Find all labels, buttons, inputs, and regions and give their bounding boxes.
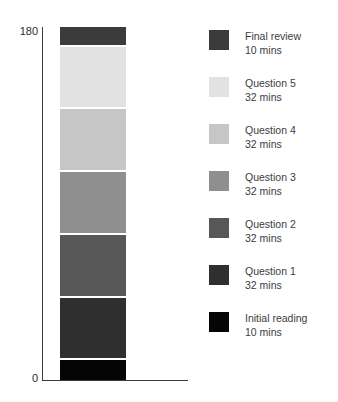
legend-value: 10 mins — [245, 43, 301, 57]
legend-text: Question 232 mins — [245, 217, 296, 245]
bar-segment — [60, 360, 126, 380]
legend-label: Final review — [245, 29, 301, 43]
legend-label: Question 1 — [245, 264, 296, 278]
legend-text: Question 132 mins — [245, 264, 296, 292]
bar-segment — [60, 235, 126, 298]
legend-swatch-icon — [209, 218, 229, 238]
legend-item[interactable]: Question 232 mins — [209, 217, 335, 264]
legend-text: Final review10 mins — [245, 29, 301, 57]
legend-value: 32 mins — [245, 278, 296, 292]
bar-segment — [60, 298, 126, 361]
legend-item[interactable]: Question 532 mins — [209, 76, 335, 123]
legend-item[interactable]: Initial reading10 mins — [209, 311, 335, 358]
legend-text: Question 432 mins — [245, 123, 296, 151]
legend-swatch-icon — [209, 124, 229, 144]
legend-value: 32 mins — [245, 137, 296, 151]
legend-label: Question 5 — [245, 76, 296, 90]
legend-item[interactable]: Question 432 mins — [209, 123, 335, 170]
legend-value: 32 mins — [245, 231, 296, 245]
legend-swatch-icon — [209, 265, 229, 285]
legend-item[interactable]: Final review10 mins — [209, 29, 335, 76]
legend-value: 10 mins — [245, 325, 307, 339]
x-axis-line — [42, 380, 188, 381]
legend-value: 32 mins — [245, 184, 296, 198]
legend-text: Initial reading10 mins — [245, 311, 307, 339]
legend-label: Question 4 — [245, 123, 296, 137]
legend-label: Question 2 — [245, 217, 296, 231]
legend-label: Initial reading — [245, 311, 307, 325]
bar-segment — [60, 47, 126, 110]
bar-segment — [60, 27, 126, 47]
legend-swatch-icon — [209, 30, 229, 50]
y-axis-tick-min: 0 — [6, 372, 38, 384]
legend-item[interactable]: Question 332 mins — [209, 170, 335, 217]
bar-segment — [60, 109, 126, 172]
legend-text: Question 332 mins — [245, 170, 296, 198]
legend-swatch-icon — [209, 77, 229, 97]
legend-swatch-icon — [209, 171, 229, 191]
stacked-bar — [60, 27, 126, 380]
y-axis-line — [42, 27, 43, 381]
legend-text: Question 532 mins — [245, 76, 296, 104]
legend-item[interactable]: Question 132 mins — [209, 264, 335, 311]
y-axis-tick-max: 180 — [6, 25, 38, 37]
bar-segment — [60, 172, 126, 235]
stacked-bar-chart: 180 0 Final review10 minsQuestion 532 mi… — [0, 0, 338, 402]
legend-label: Question 3 — [245, 170, 296, 184]
legend-swatch-icon — [209, 312, 229, 332]
chart-legend: Final review10 minsQuestion 532 minsQues… — [209, 29, 335, 358]
legend-value: 32 mins — [245, 90, 296, 104]
